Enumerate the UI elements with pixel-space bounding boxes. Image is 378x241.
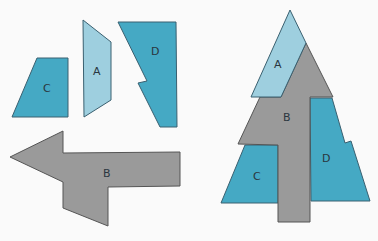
tree-piece-b-label: B — [283, 111, 291, 124]
piece-b — [10, 131, 180, 226]
assembled-tree: C D B A — [221, 10, 370, 222]
piece-a-label: A — [93, 65, 101, 78]
tree-piece-d — [310, 98, 370, 201]
tangram-tree-diagram: C A D B C D B A — [0, 0, 378, 241]
piece-d — [118, 22, 177, 127]
tree-piece-a-label: A — [274, 58, 282, 71]
tree-piece-d-label: D — [322, 152, 330, 165]
separate-pieces: C A D B — [10, 20, 180, 226]
piece-c-label: C — [43, 82, 51, 95]
tree-piece-c — [221, 145, 278, 203]
diagram-canvas: C A D B C D B A — [0, 0, 378, 241]
tree-piece-c-label: C — [253, 170, 261, 183]
piece-c — [12, 58, 68, 117]
piece-d-label: D — [151, 45, 159, 58]
piece-b-label: B — [103, 167, 111, 180]
